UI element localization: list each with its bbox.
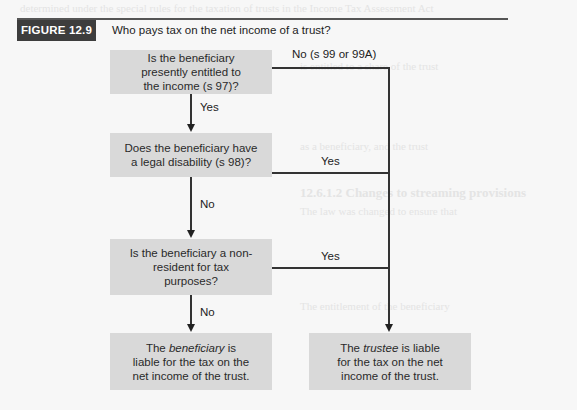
question-present-entitlement-text: Is the beneficiary presently entitled to…: [134, 51, 248, 93]
result-beneficiary-liable-text: The beneficiary is liable for the tax on…: [132, 341, 250, 383]
connector-q3-result: [190, 295, 192, 325]
arrow-down-icon: [187, 230, 195, 238]
edge-label-q1-no: No (s 99 or 99A): [292, 48, 376, 60]
arrow-down-icon: [187, 324, 195, 332]
edge-label-q2-yes: Yes: [321, 155, 340, 167]
figure-label: FIGURE 12.9: [17, 20, 96, 41]
edge-label-q3-yes: Yes: [321, 250, 340, 262]
edge-label-q2-no: No: [200, 198, 215, 210]
result-trustee-liable: The trustee is liable for the tax on the…: [309, 333, 471, 390]
result-beneficiary-liable: The beneficiary is liable for the tax on…: [110, 333, 272, 390]
connector-q1-q2: [190, 94, 192, 125]
edge-label-q1-yes: Yes: [200, 101, 219, 113]
connector-q2-yes-horizontal: [272, 172, 389, 174]
arrow-down-icon: [385, 324, 393, 332]
connector-right-vertical: [388, 67, 390, 325]
question-legal-disability: Does the beneficiary have a legal disabi…: [110, 133, 272, 177]
arrow-down-icon: [187, 124, 195, 132]
edge-label-q3-no: No: [200, 306, 215, 318]
connector-q3-yes-horizontal: [272, 267, 389, 269]
connector-q1-no-horizontal: [272, 67, 389, 69]
result-trustee-liable-text: The trustee is liable for the tax on the…: [337, 341, 443, 383]
figure-title: Who pays tax on the net income of a trus…: [112, 20, 331, 41]
question-present-entitlement: Is the beneficiary presently entitled to…: [110, 50, 272, 94]
question-non-resident: Is the beneficiary a non-resident for ta…: [110, 239, 272, 295]
connector-q2-q3: [190, 177, 192, 231]
question-legal-disability-text: Does the beneficiary have a legal disabi…: [120, 141, 262, 169]
question-non-resident-text: Is the beneficiary a non-resident for ta…: [128, 246, 254, 288]
